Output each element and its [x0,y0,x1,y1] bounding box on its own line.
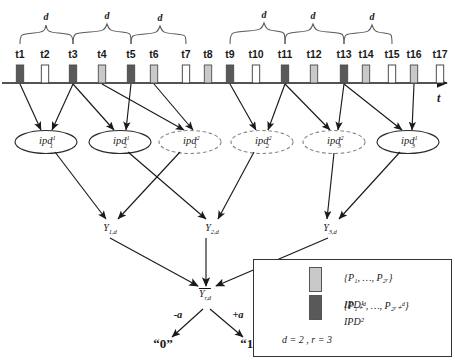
arrow-ipd12-y1 [118,152,180,219]
ipd-label-ipd-1-1: ipd11 [39,135,53,149]
arrow-t11-ipd22 [268,84,285,130]
brace-t3-t5 [73,24,131,44]
arrow-ipd21-y2 [128,152,206,219]
tick-to-ipd-arrows [20,84,414,130]
tick-label-t4: t4 [97,49,106,60]
tick-label-t13: t13 [336,49,351,60]
tick-label-t3: t3 [68,49,77,60]
brace-label-0: d [44,12,49,22]
tick-pulse-group [16,65,443,83]
legend-text-ipd2: IPD² [344,317,364,327]
brace-t13-t15 [344,25,392,44]
arrow-t6-ipd12 [154,84,193,130]
y-label-y2: Y2,d [205,223,219,236]
tick-pulse-t9 [226,65,233,83]
tick-label-t15: t15 [384,49,399,60]
tick-label-t6: t6 [149,49,158,60]
threshold-pos-label: +a [232,310,243,321]
tick-pulse-t13 [340,65,347,83]
tick-label-t7: t7 [181,49,190,60]
y-label-y3: Y3,d [323,223,337,236]
ipd-to-y-arrows [55,152,400,219]
arrow-t4-ipd12 [102,84,184,130]
legend-params-label: d = 2 , r = 3 [282,335,332,345]
tick-label-t16: t16 [406,49,421,60]
legend-box: {P₁, …, P₂ᵣ} {P₁₊ᵈ, …, P₂ᵣ₊ᵈ} IPD¹ IPD² … [253,259,452,357]
tick-label-t9: t9 [225,49,234,60]
tick-pulse-t16 [410,65,417,83]
arrow-t1-ipd11 [20,84,41,130]
ipd-ellipse-group [15,131,439,154]
arrow-t11-ipd32 [285,84,330,130]
tick-pulse-t12 [310,65,317,83]
tick-pulse-t2 [41,65,48,83]
tick-pulse-t1 [16,65,23,83]
tick-label-t5: t5 [126,49,135,60]
legend-swatch-dark-icon [309,295,322,320]
arrow-y1-ymean [110,238,198,286]
tick-pulse-t4 [98,65,105,83]
legend-text-ipd1: IPD¹ [344,300,364,310]
arrow-t3-ipd11 [52,84,73,130]
bit-zero-label: “0” [153,337,173,350]
tick-pulse-t17 [436,65,443,83]
threshold-neg-label: -a [174,310,183,321]
tick-label-t17: t17 [432,49,447,60]
tick-label-t12: t12 [306,49,321,60]
tick-label-t2: t2 [40,49,49,60]
brace-label-5: d [370,12,375,22]
arrow-ipd32-y3 [327,153,334,219]
arrow-ipd22-y2 [218,152,254,219]
arrow-t9-ipd22 [230,84,256,130]
arrow-t3-ipd21 [73,84,114,130]
brace-label-4: d [311,11,316,21]
tick-pulse-t6 [150,65,157,83]
brace-group [20,23,392,44]
tick-label-t1: t1 [15,49,24,60]
brace-label-2: d [158,13,163,23]
arrow-t13-ipd32 [338,84,344,130]
arrow-t16-ipd31 [412,84,414,130]
tick-pulse-t8 [204,65,211,83]
tick-pulse-t15 [388,65,395,83]
tick-pulse-t14 [362,65,369,83]
brace-label-1: d [105,11,110,21]
brace-t5-t7 [131,26,186,44]
ipd-label-ipd-1-2: ipd21 [183,135,197,149]
arrow-t5-ipd21 [126,84,131,130]
arrow-ipd11-y1 [55,152,106,219]
arrow-t13-ipd31 [344,84,402,130]
y-mean-label: Yr,d [199,288,211,302]
tick-label-t8: t8 [203,49,212,60]
arrow-ipd31-y3 [339,152,400,219]
tick-pulse-t5 [127,65,134,83]
ipd-label-ipd-3-2: ipd23 [327,135,341,149]
brace-label-3: d [262,10,267,20]
tick-label-t10: t10 [248,49,263,60]
legend-swatch-light-icon [309,267,322,292]
tick-label-t11: t11 [278,49,293,60]
brace-t1-t3 [20,25,73,44]
tick-label-t14: t14 [358,49,373,60]
ipd-label-ipd-3-1: ipd13 [401,135,415,149]
time-axis-label: t [437,92,440,104]
y-label-y1: Y1,d [103,223,117,236]
brace-t11-t13 [285,24,344,44]
diagram-canvas: dddddd t1t2t3t4t5t6t7t8t9t10t11t12t13t14… [0,0,455,360]
tick-pulse-t3 [69,65,76,83]
brace-t9-t11 [230,23,285,44]
ipd-label-ipd-2-1: ipd12 [113,135,127,149]
tick-pulse-t7 [182,65,189,83]
legend-text-p-set: {P₁, …, P₂ᵣ} [344,273,393,283]
tick-pulse-t10 [252,65,259,83]
ipd-label-ipd-2-2: ipd22 [255,135,269,149]
tick-pulse-t11 [281,65,288,83]
